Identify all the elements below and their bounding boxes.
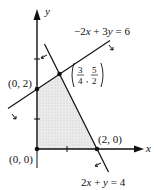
feasible-region <box>37 74 97 149</box>
line-2-equation: 2x + y = 4 <box>81 176 126 188</box>
svg-text:4: 4 <box>78 76 83 86</box>
vertex-origin <box>35 147 40 152</box>
svg-text:3: 3 <box>78 65 83 75</box>
vertex-3-4-5-2 <box>57 72 62 77</box>
vertex-label-0-2: (0, 2) <box>8 77 32 90</box>
vertex-0-2 <box>35 87 40 92</box>
x-axis-arrow-icon <box>134 146 144 153</box>
x-axis-label: x <box>145 142 151 154</box>
vertex-label-origin: (0, 0) <box>9 153 33 166</box>
svg-text:,: , <box>86 74 88 84</box>
direction-arrow-icon <box>12 114 16 119</box>
x-axis <box>37 146 144 169</box>
svg-text:5: 5 <box>92 65 97 75</box>
direction-arrow-icon <box>109 45 113 50</box>
feasible-region-diagram: x y −2x + 3y = 6 2x + y = 4 (0, 0) (0, 2… <box>0 0 154 190</box>
svg-text:2: 2 <box>92 76 97 86</box>
direction-arrow-icon <box>95 163 101 167</box>
y-axis-arrow-icon <box>34 9 41 20</box>
line-1-equation: −2x + 3y = 6 <box>74 25 130 37</box>
direction-arrow-icon <box>41 55 47 59</box>
vertex-2-0 <box>95 147 100 152</box>
vertex-label-3-4-5-2: 3 4 , 5 2 <box>72 63 103 87</box>
y-axis-label: y <box>44 5 50 17</box>
vertex-label-2-0: (2, 0) <box>98 133 122 146</box>
